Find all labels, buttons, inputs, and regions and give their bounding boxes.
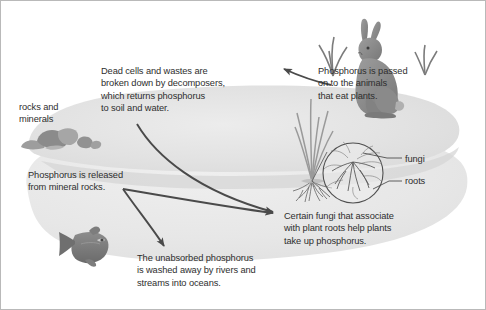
label-phosphorus-to-animals: Phosphorus is passed on to the animals t…: [318, 65, 407, 102]
grass-tuft-right: [415, 45, 437, 75]
label-released-from-rocks: Phosphorus is released from mineral rock…: [28, 169, 123, 194]
callout-label-roots: roots: [405, 175, 425, 187]
callout-label-fungi: fungi: [405, 153, 425, 165]
label-rocks-and-minerals: rocks and minerals: [19, 101, 58, 126]
phosphorus-cycle-diagram: rocks and minerals Dead cells and wastes…: [0, 0, 486, 310]
label-decomposers: Dead cells and wastes are broken down by…: [101, 65, 225, 115]
label-fungi-association: Certain fungi that associate with plant …: [284, 210, 394, 247]
label-unabsorbed-phosphorus: The unabsorbed phosphorus is washed away…: [137, 252, 256, 289]
